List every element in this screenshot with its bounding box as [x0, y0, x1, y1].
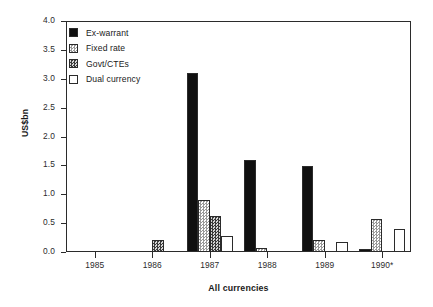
legend-label: Fixed rate [86, 43, 125, 53]
legend-item: Fixed rate [69, 41, 195, 57]
x-tick-label: 1986 [122, 260, 182, 270]
bar [371, 219, 383, 252]
y-tick-mark [61, 50, 66, 51]
x-tick-label: 1985 [65, 260, 125, 270]
y-tick-label: 1.0 [43, 188, 55, 198]
legend-label: Ex-warrant [86, 28, 129, 38]
bar [244, 160, 256, 252]
y-tick-label: 3.0 [43, 73, 55, 83]
x-tick-label: 1988 [237, 260, 297, 270]
chart-legend: Ex-warrantFixed rateGovt/CTEsDual curren… [69, 25, 195, 87]
legend-item: Ex-warrant [69, 25, 195, 41]
bar [394, 229, 406, 252]
legend-swatch [69, 44, 78, 53]
y-tick-label: 1.5 [43, 159, 55, 169]
y-tick-mark [61, 194, 66, 195]
legend-swatch [69, 59, 78, 68]
y-tick-label: 2.5 [43, 102, 55, 112]
x-tick-mark [382, 252, 383, 258]
bar [152, 240, 164, 252]
y-tick-label: 3.5 [43, 44, 55, 54]
x-tick-mark [152, 252, 153, 258]
legend-swatch [69, 28, 78, 37]
y-tick-label: 0.5 [43, 217, 55, 227]
bar [198, 200, 210, 252]
bar-chart-figure: 0.00.51.01.52.02.53.03.54.0 198519861987… [0, 0, 433, 307]
x-tick-mark [267, 252, 268, 258]
legend-item: Dual currency [69, 72, 195, 88]
y-tick-label: 2.0 [43, 131, 55, 141]
y-tick-mark [61, 165, 66, 166]
bar [187, 73, 199, 252]
legend-swatch [69, 75, 78, 84]
y-tick-mark [61, 79, 66, 80]
bar [210, 216, 222, 252]
x-tick-label: 1990* [352, 260, 412, 270]
bar [336, 242, 348, 252]
x-axis-label: All currencies [66, 283, 411, 293]
x-tick-mark [95, 252, 96, 258]
y-tick-mark [61, 21, 66, 22]
bar [221, 236, 233, 252]
x-tick-mark [325, 252, 326, 258]
x-tick-label: 1989 [295, 260, 355, 270]
legend-label: Govt/CTEs [86, 59, 129, 69]
y-tick-mark [61, 252, 66, 253]
y-tick-mark [61, 137, 66, 138]
bar [302, 166, 314, 252]
bar [256, 248, 268, 252]
legend-label: Dual currency [86, 74, 140, 84]
bar [313, 240, 325, 252]
y-tick-label: 0.0 [43, 246, 55, 256]
legend-item: Govt/CTEs [69, 56, 195, 72]
x-tick-mark [210, 252, 211, 258]
y-tick-label: 4.0 [43, 15, 55, 25]
y-tick-mark [61, 108, 66, 109]
bar [359, 249, 371, 252]
x-tick-label: 1987 [180, 260, 240, 270]
y-axis-label: US$bn [20, 93, 30, 153]
y-tick-mark [61, 223, 66, 224]
